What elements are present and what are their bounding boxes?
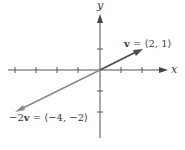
coordinate-plane xyxy=(0,0,185,150)
x-axis-label: x xyxy=(171,64,177,75)
vector-v-label: v = ⟨2, 1⟩ xyxy=(124,39,171,49)
vector-neg2v-scalar: −2 xyxy=(9,112,24,123)
vector-v-arrowhead-icon xyxy=(133,49,143,56)
y-axis-arrow-icon xyxy=(97,14,103,23)
vector-neg2v-components: = ⟨−4, −2⟩ xyxy=(30,112,88,123)
x-axis-arrow-icon xyxy=(159,67,168,73)
vector-v xyxy=(100,52,137,71)
vector-v-components: = ⟨2, 1⟩ xyxy=(130,38,172,49)
vector-neg2v-arrowhead-icon xyxy=(15,105,25,112)
vector-neg2v-label: −2v = ⟨−4, −2⟩ xyxy=(9,113,88,123)
y-axis-label: y xyxy=(97,0,103,11)
vector-neg2v xyxy=(20,70,100,110)
vector-diagram: y x v = ⟨2, 1⟩ −2v = ⟨−4, −2⟩ xyxy=(0,0,185,150)
